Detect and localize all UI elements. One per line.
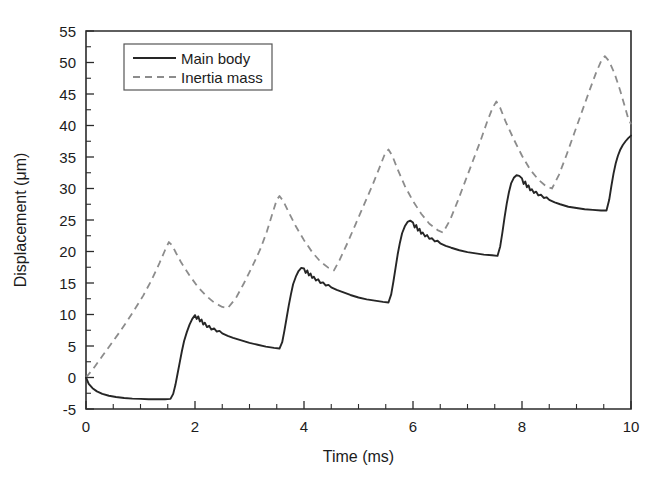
- x-tick-label: 2: [191, 418, 199, 435]
- series-layer: [86, 56, 631, 399]
- y-tick-label: 15: [59, 275, 76, 292]
- y-tick-label: 10: [59, 306, 76, 323]
- y-tick-label: 35: [59, 149, 76, 166]
- legend-label-main-body: Main body: [181, 50, 251, 67]
- series-line-inertia-mass: [86, 56, 631, 377]
- y-axis-title: Displacement (μm): [12, 153, 29, 288]
- chart-figure: -50510152025303540455055 0246810 Time (m…: [0, 0, 672, 482]
- x-tick-label: 4: [300, 418, 308, 435]
- chart-legend: Main body Inertia mass: [124, 44, 272, 90]
- y-tick-label: 55: [59, 23, 76, 40]
- x-axis-ticks: 0246810: [82, 401, 640, 435]
- y-tick-label: 30: [59, 180, 76, 197]
- series-line-main-body: [86, 136, 631, 400]
- x-tick-label: 0: [82, 418, 90, 435]
- y-tick-label: 20: [59, 243, 76, 260]
- legend-label-inertia-mass: Inertia mass: [181, 69, 263, 86]
- y-axis-ticks: -50510152025303540455055: [59, 23, 94, 418]
- y-tick-label: 5: [68, 338, 76, 355]
- x-tick-label: 8: [518, 418, 526, 435]
- y-tick-label: -5: [63, 401, 76, 418]
- y-tick-label: 0: [68, 369, 76, 386]
- y-tick-label: 25: [59, 212, 76, 229]
- y-tick-label: 45: [59, 86, 76, 103]
- x-axis-title: Time (ms): [323, 448, 394, 465]
- y-tick-label: 50: [59, 54, 76, 71]
- y-tick-label: 40: [59, 117, 76, 134]
- displacement-vs-time-chart: -50510152025303540455055 0246810 Time (m…: [0, 0, 672, 482]
- x-tick-label: 6: [409, 418, 417, 435]
- x-tick-label: 10: [623, 418, 640, 435]
